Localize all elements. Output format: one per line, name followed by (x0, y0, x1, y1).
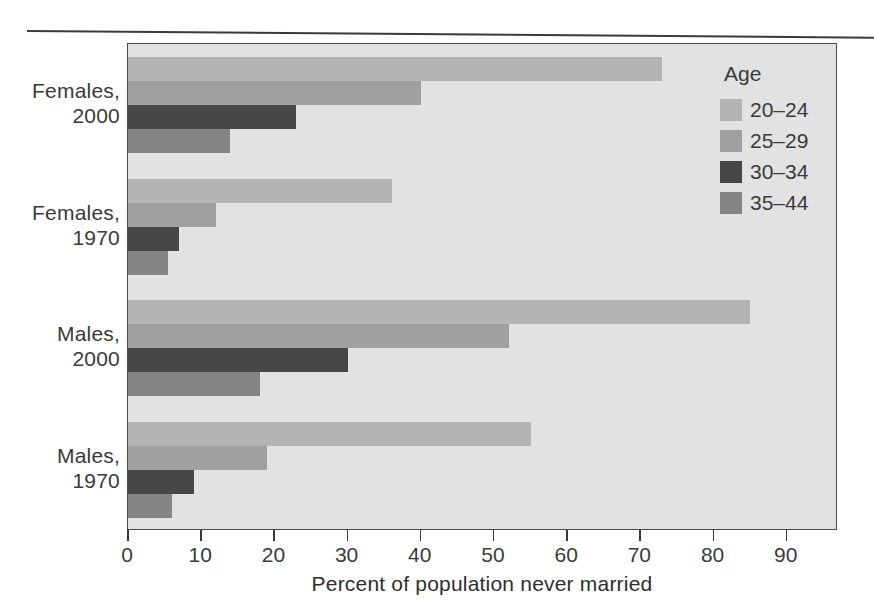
bar-35-44-males-2000 (128, 372, 260, 396)
bar-25-29-females-2000 (128, 81, 421, 105)
category-label-females-2000: Females,2000 (5, 78, 120, 128)
bar-group (128, 409, 836, 531)
category-label-females-1970: Females,1970 (5, 200, 120, 250)
legend-swatch-icon (720, 99, 742, 121)
bar-35-44-females-1970 (128, 251, 168, 275)
x-tick (420, 530, 422, 541)
x-tick-label: 10 (178, 543, 222, 567)
bar-chart-figure: Females,2000Females,1970Males,2000Males,… (0, 0, 874, 615)
bar-25-29-females-1970 (128, 203, 216, 227)
legend-entry: 35–44 (720, 187, 838, 218)
x-tick (639, 530, 641, 541)
x-tick (713, 530, 715, 541)
legend-swatch-icon (720, 161, 742, 183)
x-tick (273, 530, 275, 541)
x-tick-label: 20 (251, 543, 295, 567)
category-label-males-1970: Males,1970 (5, 443, 120, 493)
x-tick-label: 0 (105, 543, 149, 567)
x-tick (493, 530, 495, 541)
legend-title: Age (724, 62, 838, 86)
legend-entries: 20–2425–2930–3435–44 (720, 94, 838, 218)
category-label-line1: Males, (5, 321, 120, 346)
bar-30-34-females-2000 (128, 105, 296, 129)
legend: Age 20–2425–2930–3435–44 (720, 62, 838, 218)
category-label-line2: 1970 (5, 468, 120, 493)
category-axis-labels: Females,2000Females,1970Males,2000Males,… (0, 43, 120, 530)
x-tick (786, 530, 788, 541)
category-label-line1: Females, (5, 200, 120, 225)
x-tick-label: 60 (544, 543, 588, 567)
legend-label: 20–24 (750, 98, 808, 122)
legend-swatch-icon (720, 130, 742, 152)
x-tick-label: 90 (764, 543, 808, 567)
category-label-line2: 2000 (5, 103, 120, 128)
bar-20-24-females-2000 (128, 57, 662, 81)
category-label-line1: Males, (5, 443, 120, 468)
x-tick (200, 530, 202, 541)
x-tick (127, 530, 129, 541)
category-label-line2: 2000 (5, 346, 120, 371)
legend-label: 35–44 (750, 191, 808, 215)
x-tick (347, 530, 349, 541)
bar-25-29-males-2000 (128, 324, 509, 348)
category-label-males-2000: Males,2000 (5, 321, 120, 371)
legend-entry: 20–24 (720, 94, 838, 125)
bar-30-34-females-1970 (128, 227, 179, 251)
x-tick-label: 70 (617, 543, 661, 567)
category-label-line1: Females, (5, 78, 120, 103)
bar-30-34-males-1970 (128, 470, 194, 494)
legend-label: 25–29 (750, 129, 808, 153)
legend-entry: 30–34 (720, 156, 838, 187)
legend-label: 30–34 (750, 160, 808, 184)
x-axis-title: Percent of population never married (127, 572, 837, 596)
bar-35-44-females-2000 (128, 129, 230, 153)
x-axis: 0102030405060708090 (127, 530, 837, 531)
bar-20-24-males-1970 (128, 422, 531, 446)
bar-30-34-males-2000 (128, 348, 348, 372)
category-label-line2: 1970 (5, 225, 120, 250)
legend-swatch-icon (720, 192, 742, 214)
legend-entry: 25–29 (720, 125, 838, 156)
bar-group (128, 288, 836, 410)
bar-35-44-males-1970 (128, 494, 172, 518)
x-tick-label: 80 (691, 543, 735, 567)
x-tick-label: 30 (325, 543, 369, 567)
x-tick-label: 40 (398, 543, 442, 567)
bar-25-29-males-1970 (128, 446, 267, 470)
x-tick (566, 530, 568, 541)
bar-20-24-males-2000 (128, 300, 750, 324)
x-tick-label: 50 (471, 543, 515, 567)
bar-20-24-females-1970 (128, 179, 392, 203)
